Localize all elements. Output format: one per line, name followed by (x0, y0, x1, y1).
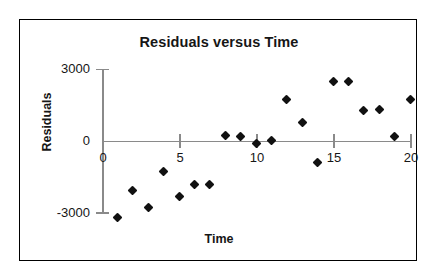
data-point (343, 76, 353, 86)
data-point (251, 138, 261, 148)
data-point (390, 131, 400, 141)
data-point (266, 135, 276, 145)
data-point (220, 130, 230, 140)
data-point (159, 166, 169, 176)
chart-frame: Residuals versus Time Residuals Time 300… (19, 19, 417, 261)
data-point (128, 185, 138, 195)
data-point (189, 179, 199, 189)
data-point (359, 105, 369, 115)
data-point (313, 157, 323, 167)
data-points-layer (20, 20, 418, 262)
data-point (112, 212, 122, 222)
data-point (297, 117, 307, 127)
plot-area: 3000 0 -3000 0 5 10 15 20 (20, 20, 418, 262)
data-point (143, 202, 153, 212)
data-point (405, 94, 415, 104)
data-point (374, 104, 384, 114)
data-point (205, 179, 215, 189)
data-point (282, 94, 292, 104)
data-point (328, 76, 338, 86)
data-point (174, 191, 184, 201)
data-point (236, 131, 246, 141)
